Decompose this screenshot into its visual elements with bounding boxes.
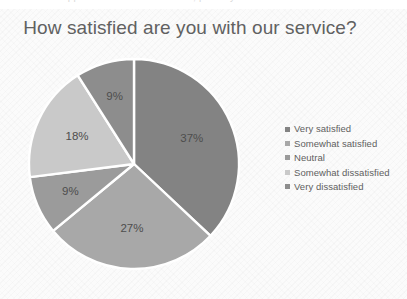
pie-plot-area: 37%27%9%18%9% — [27, 57, 241, 271]
legend-item-label: Somewhat dissatisfied — [294, 168, 390, 178]
legend-item[interactable]: Somewhat dissatisfied — [285, 165, 403, 179]
legend-item-label: Very dissatisfied — [294, 182, 364, 192]
legend-item-label: Somewhat satisfied — [294, 139, 377, 149]
legend-swatch-icon — [285, 127, 290, 132]
legend-swatch-icon — [285, 184, 290, 189]
legend-item[interactable]: Very satisfied — [285, 122, 403, 136]
pie-slice-label: 9% — [106, 90, 123, 102]
pie-slice-label: 27% — [120, 222, 143, 234]
pie-slice-label: 9% — [62, 185, 79, 197]
pie-slice-label: 37% — [180, 132, 203, 144]
legend-item[interactable]: Neutral — [285, 151, 403, 165]
pie-chart: 37%27%9%18%9% — [27, 57, 241, 271]
cropped-top-text: appear above the chart area, partially c… — [62, 0, 267, 2]
legend-swatch-icon — [285, 170, 290, 175]
chart-title: How satisfied are you with our service? — [0, 17, 380, 39]
legend-item[interactable]: Somewhat satisfied — [285, 136, 403, 150]
pie-slices — [29, 59, 239, 269]
chart-legend: Very satisfiedSomewhat satisfiedNeutralS… — [285, 122, 403, 194]
legend-item-label: Neutral — [294, 153, 325, 163]
legend-item-label: Very satisfied — [294, 124, 351, 134]
chart-canvas: appear above the chart area, partially c… — [0, 0, 407, 299]
legend-swatch-icon — [285, 141, 290, 146]
pie-slice-label: 18% — [65, 130, 88, 142]
legend-swatch-icon — [285, 155, 290, 160]
cropped-top-text-strip: appear above the chart area, partially c… — [0, 0, 407, 9]
legend-item[interactable]: Very dissatisfied — [285, 180, 403, 194]
